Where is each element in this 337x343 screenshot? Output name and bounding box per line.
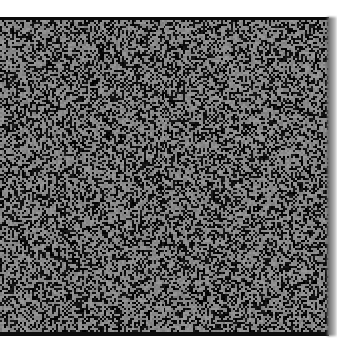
blurred-right-edge bbox=[327, 17, 337, 336]
bottom-border bbox=[0, 332, 329, 336]
noise-image bbox=[0, 17, 329, 336]
noise-texture bbox=[0, 20, 329, 332]
